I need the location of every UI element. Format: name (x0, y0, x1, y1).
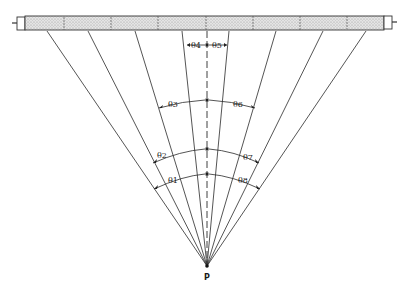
label-theta2: θ2 (157, 151, 167, 160)
tube-body (25, 16, 384, 30)
point-p-label: P (204, 273, 210, 282)
label-theta1: θ1 (168, 176, 178, 185)
center-mark-4 (206, 173, 209, 176)
arc-theta6 (209, 100, 255, 108)
point-p-dot (205, 264, 209, 268)
tube-end-cap-right (384, 16, 392, 29)
ray-3 (135, 31, 207, 266)
ray-7 (207, 31, 276, 266)
label-theta6: θ6 (233, 100, 243, 109)
arrowhead-theta4 (187, 43, 190, 47)
center-mark-3 (206, 148, 209, 151)
label-theta4: θ4 (191, 41, 201, 50)
label-theta7: θ7 (243, 153, 253, 162)
ray-9 (207, 31, 366, 266)
label-theta3: θ3 (168, 100, 178, 109)
point-p: P (204, 264, 210, 282)
arrowhead-theta8 (256, 185, 260, 189)
ray-6 (207, 31, 229, 266)
ray-2 (88, 31, 207, 266)
center-mark-2 (206, 99, 209, 102)
arc-theta3 (159, 100, 205, 108)
center-mark-1 (206, 44, 209, 47)
arrowhead-theta3 (159, 105, 163, 108)
fluorescent-tube (12, 16, 397, 30)
angle-arcs (153, 43, 260, 189)
diagram-canvas: θ4 θ5 θ3 θ6 θ2 θ7 θ1 θ8 P (0, 0, 414, 297)
arrowhead-theta1 (154, 185, 158, 189)
tube-end-cap-left (17, 17, 25, 30)
label-theta5: θ5 (212, 41, 222, 50)
ray-8 (207, 31, 323, 266)
arrowhead-theta5 (224, 43, 227, 47)
ray-1 (47, 31, 207, 266)
label-theta8: θ8 (238, 176, 248, 185)
ray-4 (182, 31, 207, 266)
angle-labels: θ4 θ5 θ3 θ6 θ2 θ7 θ1 θ8 (157, 41, 253, 185)
arc-theta8 (209, 174, 260, 189)
